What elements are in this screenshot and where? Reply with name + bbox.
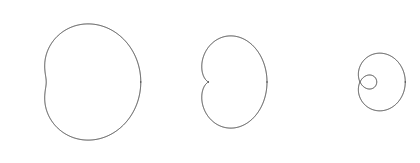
figure-background [0, 0, 420, 163]
limacon-curves-figure [0, 0, 420, 163]
figure-canvas [0, 0, 420, 163]
